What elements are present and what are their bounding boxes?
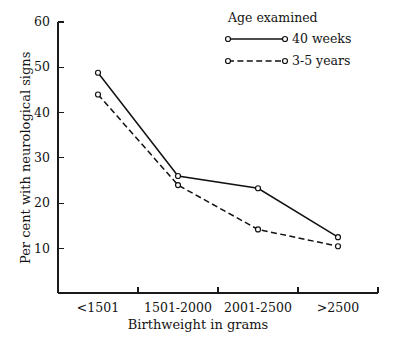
data-point-marker [256, 227, 261, 232]
x-tick-label: 1501-2000 [138, 302, 218, 315]
legend-marker [226, 59, 231, 64]
series-line-3-5-years [98, 94, 338, 246]
x-axis-title: Birthweight in grams [0, 318, 396, 331]
x-tick-label: >2500 [298, 302, 378, 315]
series-line-40-weeks [98, 73, 338, 237]
chart-figure: 102030405060 <15011501-20002001-2500>250… [0, 0, 396, 340]
data-point-marker [96, 92, 101, 97]
y-axis-title: Per cent with neurological signs [19, 52, 32, 264]
data-point-marker [96, 70, 101, 75]
chart-canvas [0, 0, 396, 340]
data-point-marker [336, 244, 341, 249]
legend-label-40-weeks: 40 weeks [292, 33, 351, 46]
legend-label-3-5-years: 3-5 years [292, 55, 350, 68]
x-tick-label: <1501 [58, 302, 138, 315]
data-point-marker [336, 235, 341, 240]
legend-marker [283, 59, 288, 64]
legend-marker [226, 37, 231, 42]
data-series [96, 70, 341, 249]
y-tick-label: 60 [24, 16, 50, 29]
data-point-marker [176, 174, 181, 179]
legend-symbols [226, 37, 288, 64]
x-tick-label: 2001-2500 [218, 302, 298, 315]
legend-title: Age examined [228, 12, 318, 25]
legend-marker [283, 37, 288, 42]
data-point-marker [256, 186, 261, 191]
data-point-marker [176, 183, 181, 188]
